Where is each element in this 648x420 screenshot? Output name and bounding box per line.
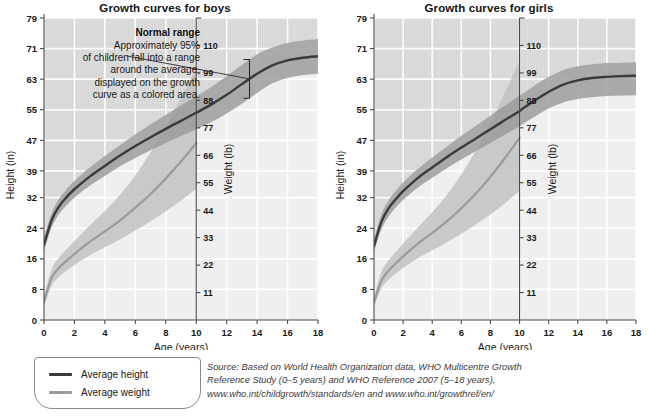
y-axis-weight-tick-77: 77 <box>203 123 213 133</box>
y-axis-height-tick-47: 47 <box>26 135 37 146</box>
legend-swatch-height <box>49 373 72 376</box>
y-axis-weight-tick-11: 11 <box>527 288 537 298</box>
x-axis-tick-2: 2 <box>400 327 405 338</box>
y-axis-weight-tick-55: 55 <box>527 178 537 188</box>
y-axis-weight-label: Weight (lb) <box>222 144 234 195</box>
y-axis-height-tick-32: 32 <box>356 192 367 203</box>
annotation-line-5: curve as a colored area. <box>93 89 200 100</box>
y-axis-height-tick-8: 8 <box>362 284 367 295</box>
x-axis-tick-2: 2 <box>72 327 77 338</box>
y-axis-weight-tick-88: 88 <box>527 96 537 106</box>
source-note: Source: Based on World Health Organizati… <box>207 361 637 401</box>
x-axis-tick-0: 0 <box>371 327 376 338</box>
y-axis-height-tick-8: 8 <box>32 284 37 295</box>
x-axis-tick-4: 4 <box>102 327 108 338</box>
y-axis-height-tick-55: 55 <box>356 104 367 115</box>
y-axis-height-tick-16: 16 <box>26 253 37 264</box>
y-axis-height-tick-47: 47 <box>356 135 367 146</box>
y-axis-weight-tick-11: 11 <box>203 288 213 298</box>
x-axis-tick-6: 6 <box>459 327 464 338</box>
y-axis-weight-tick-55: 55 <box>203 178 213 188</box>
y-axis-weight-tick-110: 110 <box>203 41 218 51</box>
y-axis-weight-tick-99: 99 <box>203 68 213 78</box>
annotation-line-1: Approximately 95% <box>114 40 200 51</box>
y-axis-height-tick-0: 0 <box>32 315 37 326</box>
chart-panel-girls: Growth curves for girls 0816243239475563… <box>330 0 648 350</box>
chart-title-boys: Growth curves for boys <box>0 2 330 14</box>
y-axis-weight-label: Weight (lb) <box>546 144 558 195</box>
y-axis-weight-tick-33: 33 <box>203 233 213 243</box>
source-line-3: www.who.int/childgrowth/standards/en and… <box>207 388 637 401</box>
x-axis-tick-14: 14 <box>252 327 263 338</box>
y-axis-weight-tick-33: 33 <box>527 233 537 243</box>
y-axis-height-tick-0: 0 <box>362 315 367 326</box>
legend-label-height: Average height <box>81 369 148 380</box>
y-axis-weight-tick-77: 77 <box>527 123 537 133</box>
legend-item-average-weight: Average weight <box>49 387 150 398</box>
y-axis-height-tick-79: 79 <box>356 13 367 24</box>
y-axis-weight-tick-66: 66 <box>527 151 537 161</box>
y-axis-height-tick-39: 39 <box>356 166 367 177</box>
y-axis-weight-tick-44: 44 <box>203 206 213 216</box>
x-axis-tick-8: 8 <box>488 327 493 338</box>
y-axis-height-tick-39: 39 <box>26 166 37 177</box>
x-axis-tick-16: 16 <box>602 327 613 338</box>
y-axis-weight-tick-22: 22 <box>527 260 537 270</box>
growth-chart-boys: 08162432394755637179024681012141618Age (… <box>0 0 330 350</box>
legend-label-weight: Average weight <box>81 387 150 398</box>
x-axis-tick-6: 6 <box>133 327 138 338</box>
x-axis-tick-4: 4 <box>430 327 436 338</box>
chart-title-girls: Growth curves for girls <box>330 2 648 14</box>
annotation-line-3: around the average, <box>110 64 200 75</box>
y-axis-height-label: Height (in) <box>4 151 16 199</box>
y-axis-height-tick-16: 16 <box>356 253 367 264</box>
y-axis-height-tick-79: 79 <box>26 13 37 24</box>
x-axis-tick-14: 14 <box>572 327 583 338</box>
x-axis-tick-16: 16 <box>282 327 293 338</box>
y-axis-height-tick-32: 32 <box>26 192 37 203</box>
y-axis-height-tick-24: 24 <box>26 223 37 234</box>
x-axis-tick-10: 10 <box>514 327 525 338</box>
annotation-heading: Normal range <box>136 27 201 38</box>
x-axis-tick-10: 10 <box>191 327 202 338</box>
x-axis-tick-12: 12 <box>221 327 232 338</box>
y-axis-height-tick-63: 63 <box>26 74 37 85</box>
y-axis-weight-tick-22: 22 <box>203 260 213 270</box>
legend-item-average-height: Average height <box>49 369 148 380</box>
x-axis-tick-8: 8 <box>163 327 168 338</box>
legend: Average height Average weight <box>34 357 201 409</box>
annotation-line-4: displayed on the growth <box>94 77 200 88</box>
x-axis-label: Age (years) <box>478 341 532 350</box>
chart-panel-boys: Growth curves for boys 08162432394755637… <box>0 0 330 350</box>
source-line-1: Source: Based on World Health Organizati… <box>207 361 637 374</box>
y-axis-height-tick-55: 55 <box>26 104 37 115</box>
x-axis-tick-0: 0 <box>41 327 46 338</box>
x-axis-label: Age (years) <box>154 341 208 350</box>
annotation-line-2: of children fall into a range <box>83 52 201 63</box>
legend-swatch-weight <box>49 391 72 394</box>
y-axis-height-tick-24: 24 <box>356 223 367 234</box>
y-axis-weight-tick-99: 99 <box>527 68 537 78</box>
x-axis-tick-12: 12 <box>543 327 554 338</box>
y-axis-weight-tick-88: 88 <box>203 96 213 106</box>
y-axis-height-tick-71: 71 <box>26 43 37 54</box>
source-line-2: Reference Study (0–5 years) and WHO Refe… <box>207 374 637 387</box>
growth-chart-girls: 08162432394755637179024681012141618Age (… <box>330 0 648 350</box>
y-axis-weight-tick-44: 44 <box>527 206 537 216</box>
y-axis-height-tick-63: 63 <box>356 74 367 85</box>
y-axis-height-label: Height (in) <box>334 151 346 199</box>
y-axis-weight-tick-66: 66 <box>203 151 213 161</box>
y-axis-weight-tick-110: 110 <box>527 41 542 51</box>
y-axis-height-tick-71: 71 <box>356 43 367 54</box>
x-axis-tick-18: 18 <box>313 327 324 338</box>
x-axis-tick-18: 18 <box>631 327 642 338</box>
